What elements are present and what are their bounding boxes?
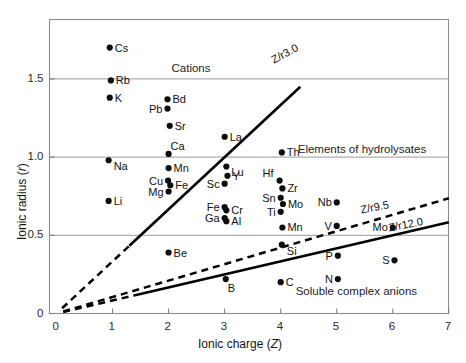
point-label-ti-25: Ti (267, 207, 276, 218)
point-label-sn-20: Sn (262, 193, 275, 204)
y-tick-label-0: 0 (37, 308, 43, 320)
data-point-zr-17 (279, 185, 285, 191)
y-tick-label-1: 1.0 (28, 151, 44, 163)
x-tick-label-5: 5 (333, 321, 339, 333)
point-label-cu-13: Cu (149, 176, 163, 187)
data-point-th-8 (279, 149, 285, 155)
y-tick-label-0-5: 0.5 (28, 229, 44, 241)
x-tick-label-0: 0 (53, 321, 59, 333)
data-point-p-33 (335, 253, 341, 259)
point-label-sc-15: Sc (207, 179, 220, 190)
region-label-soluble-complex-anions: Soluble complex anions (296, 286, 417, 298)
point-label-b-35: B (228, 283, 235, 294)
point-label-ca-7: Ca (171, 141, 185, 152)
data-points-group (106, 45, 398, 286)
point-label-y-12: Y (232, 171, 239, 182)
data-point-sn-20 (278, 195, 284, 201)
point-label-zr-17: Zr (287, 183, 297, 194)
data-point-al-27 (223, 218, 229, 224)
data-point-sc-15 (222, 181, 228, 187)
x-tick-label-7: 7 (445, 321, 451, 333)
data-point-la-6 (222, 134, 228, 140)
data-point-be-32 (166, 249, 172, 255)
x-tick-label-6: 6 (389, 321, 395, 333)
data-point-li-19 (106, 198, 112, 204)
point-label-mn-28: Mn (287, 222, 302, 233)
point-label-fe-14: Fe (175, 180, 188, 191)
data-point-mg-18 (166, 188, 172, 194)
y-tick-label-1-5: 1.5 (28, 73, 44, 85)
data-point-s-34 (391, 257, 397, 263)
point-label-nb-22: Nb (318, 197, 332, 208)
point-label-k-2: K (115, 93, 122, 104)
point-label-mn-10: Mn (174, 163, 189, 174)
point-label-mo-21: Mo (288, 199, 303, 210)
point-label-rb-1: Rb (116, 75, 130, 86)
point-label-cs-0: Cs (115, 43, 128, 54)
point-label-ga-26: Ga (205, 213, 220, 224)
data-point-na-9 (106, 157, 112, 163)
point-label-hf-16: Hf (263, 168, 274, 179)
data-point-n-36 (335, 276, 341, 282)
point-label-si-31: Si (287, 246, 297, 257)
point-label-bd-3: Bd (172, 94, 185, 105)
point-label-la-6: La (230, 132, 242, 143)
x-tick-label-3: 3 (221, 321, 227, 333)
point-label-p-33: P (326, 251, 333, 262)
y-axis-title: Ionic radius (r) (16, 163, 28, 240)
data-point-c-37 (278, 279, 284, 285)
point-label-s-34: S (382, 255, 389, 266)
data-point-cr-24 (223, 207, 229, 213)
data-point-rb-1 (108, 77, 114, 83)
point-label-sr-5: Sr (175, 121, 186, 132)
point-label-pb-4: Pb (149, 104, 162, 115)
boundary-line-Z/r3.0-extension (62, 246, 129, 309)
x-axis-title: Ionic charge (Z) (198, 338, 282, 350)
data-point-lu-11 (223, 163, 229, 169)
axis-ticks-group (50, 79, 449, 314)
region-label-hydrolysates: Elements of hydrolysates (298, 144, 426, 156)
data-point-pb-4 (164, 106, 170, 112)
point-label-mo-30: Mo (373, 222, 388, 233)
point-label-na-9: Na (114, 161, 128, 172)
data-point-sr-5 (167, 123, 173, 129)
data-point-mn-28 (279, 224, 285, 230)
data-point-si-31 (279, 242, 285, 248)
chart-figure: CsRbKBdPbSrLaCaThNaMnLuYCuFeScHfZrMgLiSn… (0, 0, 466, 363)
data-point-k-2 (107, 95, 113, 101)
x-tick-label-2: 2 (165, 321, 171, 333)
x-axis-title-text: Ionic charge (Z) (198, 337, 282, 351)
point-label-li-19: Li (114, 196, 123, 207)
data-point-hf-16 (276, 177, 282, 183)
point-label-mg-18: Mg (148, 187, 163, 198)
data-point-fe-14 (167, 182, 173, 188)
data-point-v-29 (334, 223, 340, 229)
x-tick-label-1: 1 (109, 321, 115, 333)
x-tick-label-4: 4 (277, 321, 283, 333)
data-point-mn-10 (166, 165, 172, 171)
data-point-cs-0 (107, 45, 113, 51)
point-label-al-27: Al (231, 216, 241, 227)
point-label-c-37: C (286, 277, 294, 288)
data-point-mo-21 (280, 201, 286, 207)
point-label-n-36: N (325, 274, 333, 285)
region-label-cations: Cations (172, 63, 211, 75)
data-point-bd-3 (164, 96, 170, 102)
point-label-v-29: V (324, 221, 331, 232)
point-label-be-32: Be (174, 248, 187, 259)
data-point-ti-25 (278, 209, 284, 215)
gridlines-group (50, 79, 449, 235)
y-axis-title-text: Ionic radius (r) (15, 163, 29, 240)
data-point-y-12 (224, 173, 230, 179)
data-point-nb-22 (334, 199, 340, 205)
